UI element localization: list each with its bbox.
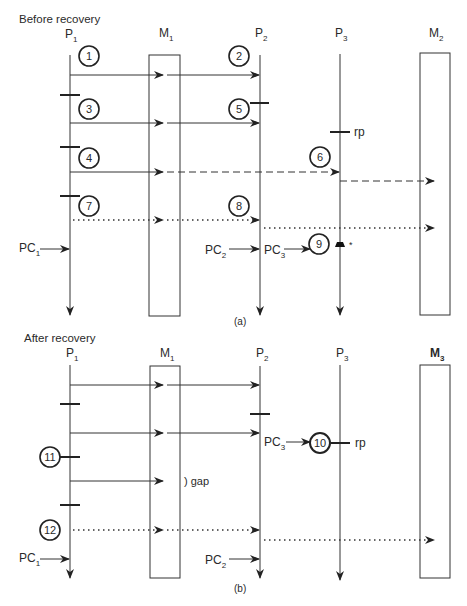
- svg-text:4: 4: [86, 152, 92, 164]
- pc1-label: PC1: [19, 241, 41, 258]
- header-p2: P2: [255, 26, 268, 43]
- header-m1: M1: [159, 26, 174, 43]
- header-p2: P2: [256, 346, 269, 363]
- svg-text:2: 2: [236, 50, 242, 62]
- recovery-diagram: Before recovery P1 M1 P2 P3 M2 rp: [0, 0, 467, 606]
- rp-label: rp: [355, 436, 366, 450]
- header-m2: M2: [429, 26, 444, 43]
- svg-text:3: 3: [86, 103, 92, 115]
- header-p3: P3: [336, 346, 349, 363]
- memory-m1-box: [149, 55, 180, 316]
- event-3: 3: [79, 99, 99, 119]
- rp-label: rp: [354, 125, 365, 139]
- pc3-label: PC3: [264, 435, 286, 452]
- memory-m2-box: [420, 53, 450, 315]
- panel-a-title: Before recovery: [19, 13, 100, 25]
- header-p1: P1: [66, 346, 79, 363]
- event-7: 7: [79, 196, 99, 216]
- svg-text:1: 1: [86, 50, 92, 62]
- event-1: 1: [79, 46, 99, 66]
- event-10: 10: [310, 433, 330, 453]
- pc3-label: PC3: [264, 243, 286, 260]
- svg-text:11: 11: [44, 451, 55, 463]
- panel-b-title: After recovery: [24, 332, 96, 344]
- memory-m1-box: [150, 366, 180, 578]
- panel-before-recovery: Before recovery P1 M1 P2 P3 M2 rp: [19, 13, 450, 327]
- pc2-label: PC2: [205, 243, 227, 260]
- event-11: 11: [40, 447, 60, 467]
- header-p3: P3: [335, 26, 348, 43]
- event-12: 12: [40, 520, 60, 540]
- svg-text:10: 10: [314, 437, 326, 449]
- pc2-label: PC2: [205, 553, 227, 570]
- svg-text:9: 9: [316, 238, 322, 250]
- memory-m3-box: [420, 365, 450, 578]
- event-6: 6: [310, 147, 330, 167]
- failure-icon: [335, 242, 345, 247]
- gap-label: ) gap: [184, 475, 209, 487]
- svg-text:12: 12: [44, 524, 56, 536]
- header-m3: M3: [430, 346, 445, 363]
- panel-after-recovery: After recovery P1 M1 P2 P3 M3 rp ) gap P…: [19, 332, 450, 594]
- failure-asterisk: *: [349, 240, 353, 250]
- panel-a-caption: (a): [234, 316, 246, 327]
- event-9: 9: [309, 234, 329, 254]
- event-4: 4: [79, 148, 99, 168]
- svg-text:8: 8: [236, 200, 242, 212]
- event-2: 2: [229, 46, 249, 66]
- svg-text:6: 6: [317, 151, 323, 163]
- svg-text:5: 5: [236, 103, 242, 115]
- event-5: 5: [229, 99, 249, 119]
- pc1-label: PC1: [19, 551, 41, 568]
- event-8: 8: [229, 196, 249, 216]
- header-m1: M1: [160, 346, 175, 363]
- header-p1: P1: [65, 27, 78, 44]
- svg-text:7: 7: [86, 200, 92, 212]
- panel-b-caption: (b): [234, 583, 246, 594]
